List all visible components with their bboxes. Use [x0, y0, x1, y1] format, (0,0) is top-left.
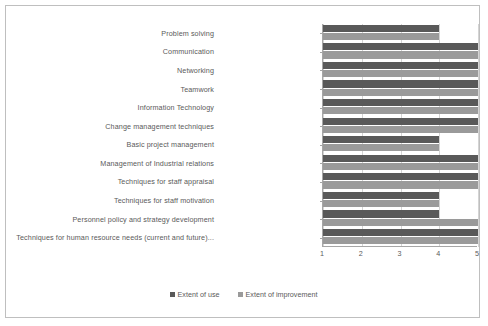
category-label-row: Techniques for staff appraisal — [6, 173, 218, 192]
plot-area — [322, 24, 477, 247]
bar-extent-of-use — [323, 155, 478, 162]
bar-extent-of-use — [323, 62, 478, 69]
category-label: Basic project management — [127, 140, 215, 149]
category-label: Techniques for staff motivation — [114, 196, 214, 205]
category-label-row: Networking — [6, 61, 218, 80]
category-label: Change management techniques — [105, 122, 214, 131]
axis-tick — [320, 182, 323, 183]
axis-tick — [320, 126, 323, 127]
bar-extent-of-use — [323, 43, 478, 50]
bar-extent-of-improvement — [323, 200, 439, 207]
axis-tick — [320, 163, 323, 164]
category-label-row: Change management techniques — [6, 117, 218, 136]
legend-item[interactable]: Extent of use — [170, 290, 220, 299]
legend-label: Extent of improvement — [246, 290, 318, 299]
bar-group — [323, 24, 477, 43]
bar-extent-of-improvement — [323, 107, 478, 114]
category-label-row: Communication — [6, 43, 218, 62]
x-tick-label: 3 — [398, 249, 402, 258]
category-label: Communication — [163, 47, 214, 56]
category-label-row: Management of Industrial relations — [6, 154, 218, 173]
bar-extent-of-use — [323, 25, 439, 32]
bar-group — [323, 228, 477, 247]
legend-swatch-icon — [238, 292, 243, 297]
category-label: Personnel policy and strategy developmen… — [72, 215, 214, 224]
category-label: Techniques for staff appraisal — [118, 177, 214, 186]
axis-tick — [320, 145, 323, 146]
gridline — [478, 24, 479, 247]
x-tick-label: 2 — [359, 249, 363, 258]
plot-wrapper: Problem solvingCommunicationNetworkingTe… — [6, 6, 481, 264]
x-tick-label: 1 — [320, 249, 324, 258]
category-label: Problem solving — [161, 29, 214, 38]
category-label-row: Basic project management — [6, 135, 218, 154]
bar-group — [323, 117, 477, 136]
bar-group — [323, 61, 477, 80]
category-label: Networking — [177, 66, 214, 75]
category-label: Teamwork — [180, 85, 214, 94]
x-axis-tick-labels: 12345 — [322, 249, 477, 263]
bar-group — [323, 98, 477, 117]
axis-tick — [320, 238, 323, 239]
bar-extent-of-use — [323, 173, 478, 180]
bar-group — [323, 43, 477, 62]
chart-frame: Problem solvingCommunicationNetworkingTe… — [5, 5, 480, 318]
bar-extent-of-improvement — [323, 126, 478, 133]
bar-extent-of-use — [323, 99, 478, 106]
legend-label: Extent of use — [178, 290, 220, 299]
category-label-row: Information Technology — [6, 98, 218, 117]
bar-extent-of-use — [323, 192, 439, 199]
bar-extent-of-improvement — [323, 181, 478, 188]
category-label-row: Personnel policy and strategy developmen… — [6, 210, 218, 229]
legend-swatch-icon — [170, 292, 175, 297]
chart-legend: Extent of useExtent of improvement — [6, 290, 481, 299]
bar-group — [323, 191, 477, 210]
x-tick-label: 4 — [436, 249, 440, 258]
category-label: Information Technology — [138, 103, 214, 112]
bar-extent-of-use — [323, 118, 478, 125]
x-tick-label: 5 — [475, 249, 479, 258]
axis-tick — [320, 52, 323, 53]
bar-extent-of-improvement — [323, 70, 478, 77]
legend-item[interactable]: Extent of improvement — [238, 290, 318, 299]
axis-tick — [320, 89, 323, 90]
bar-group — [323, 80, 477, 99]
bar-extent-of-improvement — [323, 89, 478, 96]
category-axis-labels: Problem solvingCommunicationNetworkingTe… — [6, 24, 218, 247]
category-label-row: Techniques for human resource needs (cur… — [6, 228, 218, 247]
bar-extent-of-use — [323, 210, 439, 217]
category-label-row: Teamwork — [6, 80, 218, 99]
bar-extent-of-use — [323, 136, 439, 143]
bar-extent-of-improvement — [323, 237, 478, 244]
bar-extent-of-improvement — [323, 33, 439, 40]
x-axis-line — [323, 246, 477, 247]
bar-group — [323, 136, 477, 155]
axis-tick — [320, 33, 323, 34]
category-label-row: Problem solving — [6, 24, 218, 43]
bar-group — [323, 154, 477, 173]
bar-group — [323, 173, 477, 192]
bar-extent-of-improvement — [323, 163, 478, 170]
bar-extent-of-improvement — [323, 144, 439, 151]
axis-tick — [320, 108, 323, 109]
bar-extent-of-improvement — [323, 51, 478, 58]
bar-extent-of-use — [323, 229, 478, 236]
bar-extent-of-improvement — [323, 219, 478, 226]
category-label-row: Techniques for staff motivation — [6, 191, 218, 210]
category-label: Techniques for human resource needs (cur… — [16, 233, 214, 242]
axis-tick — [320, 219, 323, 220]
bar-group — [323, 210, 477, 229]
category-label: Management of Industrial relations — [100, 159, 214, 168]
axis-tick — [320, 201, 323, 202]
axis-tick — [320, 70, 323, 71]
bar-extent-of-use — [323, 80, 478, 87]
